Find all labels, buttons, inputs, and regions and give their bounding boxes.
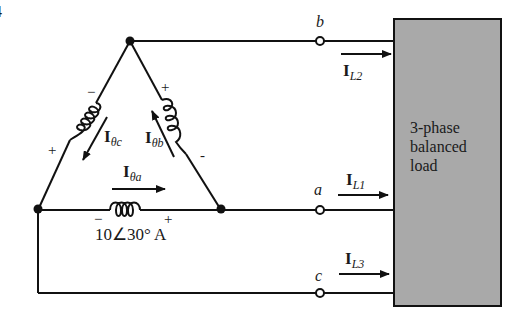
- terminal-b: [316, 37, 324, 45]
- label-IL1: IL1: [346, 171, 365, 191]
- load-label: 3-phase balanced load: [410, 118, 467, 175]
- label-IL2: IL2: [343, 62, 362, 82]
- load-label-line3: load: [410, 156, 467, 175]
- figure-number: 4: [0, 4, 2, 20]
- load-label-line2: balanced: [410, 137, 467, 156]
- label-IL3: IL3: [345, 250, 364, 270]
- label-Ic: Iθc: [104, 128, 122, 148]
- delta-source-circuit: 4 b a c IL2 IL1 IL3 Iθa Iθc Iθb − + + - …: [0, 0, 520, 322]
- source-a-value: 10∠30° A: [95, 226, 166, 243]
- terminal-c: [316, 289, 324, 297]
- label-Ib: Iθb: [145, 129, 164, 149]
- terminal-label-a: a: [314, 182, 322, 198]
- terminal-label-c: c: [315, 268, 322, 284]
- terminal-a: [316, 206, 324, 214]
- label-Ia: Iθa: [123, 163, 142, 183]
- node-bottom-left: [34, 205, 43, 214]
- node-top: [126, 37, 135, 46]
- polarity-c-minus: −: [87, 85, 95, 100]
- terminal-label-b: b: [316, 14, 324, 30]
- polarity-b-minus: -: [200, 148, 205, 163]
- polarity-c-plus: +: [48, 143, 56, 158]
- node-bottom-right: [217, 205, 226, 214]
- polarity-b-plus: +: [161, 80, 169, 95]
- load-label-line1: 3-phase: [410, 118, 467, 137]
